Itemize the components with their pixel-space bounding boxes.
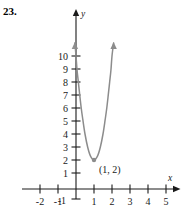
x-tick-label-2: 2 — [110, 196, 115, 207]
y-tick-label-2: 2 — [63, 155, 68, 166]
y-tick-label-7: 7 — [63, 90, 68, 101]
x-tick-label-5: 5 — [164, 196, 169, 207]
x-axis-label: x — [167, 173, 173, 183]
problem-number: 23. — [3, 5, 17, 17]
x-tick-label-4: 4 — [146, 196, 151, 207]
parabola-curve — [75, 43, 114, 160]
y-axis-tick-labels: -1 1 2 3 4 5 6 7 8 9 10 — [58, 51, 68, 206]
x-axis-tick-labels: -2 -1 1 2 3 4 5 — [36, 196, 169, 207]
y-tick-label-3: 3 — [63, 142, 68, 153]
y-axis-arrowhead — [73, 9, 79, 16]
y-tick-label--1: -1 — [58, 195, 66, 206]
y-tick-label-9: 9 — [63, 64, 68, 75]
graph-svg: -2 -1 1 2 3 4 5 -1 1 2 3 — [0, 0, 184, 211]
y-tick-label-4: 4 — [63, 129, 68, 140]
vertex-point-label: (1, 2) — [99, 164, 121, 176]
curve-right-arrowhead — [110, 42, 116, 49]
y-tick-label-1: 1 — [63, 168, 68, 179]
figure-container: 23. -2 -1 1 2 3 — [0, 0, 184, 211]
x-tick-label-3: 3 — [128, 196, 133, 207]
x-axis-arrowhead — [173, 186, 181, 192]
y-tick-label-8: 8 — [63, 77, 68, 88]
y-axis-label: y — [80, 9, 86, 19]
x-tick-label--2: -2 — [36, 196, 44, 207]
y-tick-label-10: 10 — [58, 51, 68, 62]
curve-left-arrowhead — [72, 42, 78, 49]
x-tick-label-1: 1 — [92, 196, 97, 207]
y-tick-label-6: 6 — [63, 103, 68, 114]
parabola-curve-group — [72, 42, 117, 160]
vertex-point-marker — [92, 158, 96, 162]
y-tick-label-5: 5 — [63, 116, 68, 127]
